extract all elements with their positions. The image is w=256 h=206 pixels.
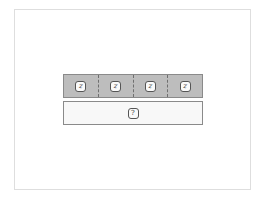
segment-label: z: [110, 81, 121, 92]
diagram-frame: [14, 9, 251, 190]
tape-segment: z: [64, 75, 99, 97]
total-bar: ?: [63, 101, 203, 125]
segment-label: z: [145, 81, 156, 92]
tape-bar: z z z z: [63, 74, 203, 98]
segment-label: z: [180, 81, 191, 92]
tape-segment: z: [99, 75, 134, 97]
tape-segment: z: [134, 75, 169, 97]
segment-label: z: [75, 81, 86, 92]
total-label: ?: [128, 108, 139, 119]
tape-segment: z: [168, 75, 202, 97]
